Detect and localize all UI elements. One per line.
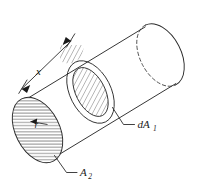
label-A2: A 2 [79,166,92,181]
cylinder-bottom-edge [53,84,176,159]
label-length-x: x [35,65,41,77]
far-rim-hidden-edge [127,25,176,94]
label-radius-r: r [35,120,39,130]
label-dA1-subscript: 1 [153,124,157,133]
leader-dA1 [113,108,135,125]
dimension-arrowhead-right [63,37,72,45]
leader-dA1-line [113,108,135,125]
cylinder-radiation-diagram: x r dA 1 A 2 [0,0,198,193]
label-A2-main: A [79,166,87,178]
figure-container: x r dA 1 A 2 [0,0,198,193]
label-A2-subscript: 2 [88,172,92,181]
far-end-cap [127,16,194,94]
dimension-line-shaft [22,41,72,89]
length-dimension [19,34,75,94]
label-dA1: dA 1 [138,118,157,133]
annular-ring-band [57,45,124,141]
cylinder-body: x r dA 1 A 2 [2,16,194,181]
label-dA1-main: dA [138,118,151,130]
near-end-cap [2,89,73,172]
far-rim-visible-edge [145,16,194,85]
